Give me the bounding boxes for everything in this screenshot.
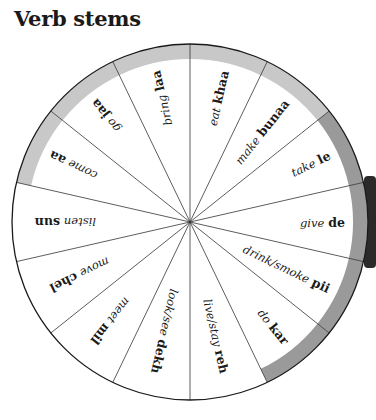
segment-label: listen sun bbox=[35, 215, 96, 230]
verb-stem: sun bbox=[35, 215, 60, 230]
english-gloss: give bbox=[300, 216, 324, 230]
ring-band-dark bbox=[317, 258, 363, 333]
verb-stem: de bbox=[328, 215, 345, 230]
english-gloss: listen bbox=[64, 215, 96, 229]
ring-band-dark bbox=[349, 182, 368, 261]
segment-label: give de bbox=[300, 215, 345, 230]
